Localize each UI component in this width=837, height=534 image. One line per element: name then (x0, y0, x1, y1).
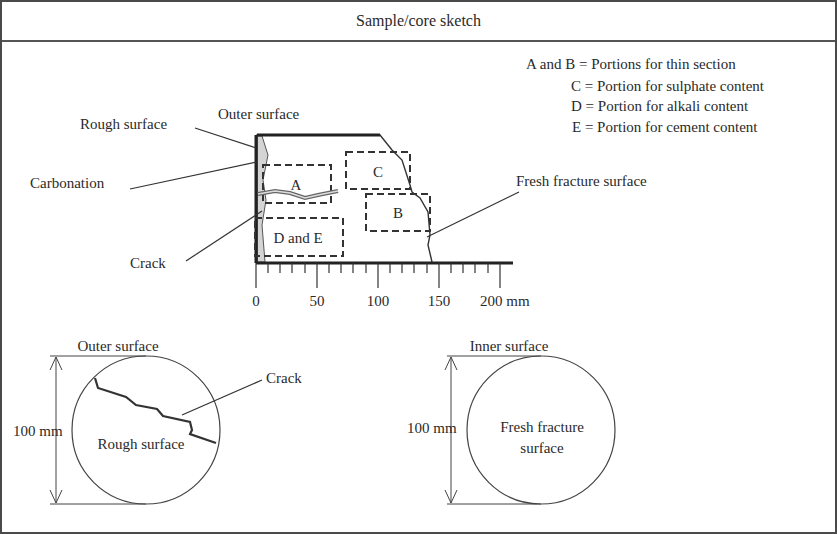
portion-de-label: D and E (273, 230, 322, 246)
legend-line-c: C = Portion for sulphate content (571, 78, 765, 94)
portion-b-label: B (393, 205, 403, 221)
carbonation-label: Carbonation (30, 175, 105, 191)
portion-a-label: A (291, 177, 302, 193)
legend-line-e: E = Portion for cement content (572, 119, 758, 135)
scale-ticks (256, 263, 500, 288)
scale-labels: 0 50 100 150 200 mm (252, 293, 530, 309)
outer-core-circle (72, 356, 220, 504)
fresh-fracture-label: Fresh fracture surface (516, 173, 647, 189)
outer-crack-label: Crack (266, 370, 302, 386)
portion-c-label: C (373, 164, 383, 180)
outer-surface-view: Outer surface 100 mm Crack Rough surface (13, 338, 302, 504)
scale-tick-50: 50 (310, 293, 325, 309)
scale-tick-150: 150 (428, 293, 451, 309)
inner-center-label-2: surface (520, 440, 564, 456)
scale-tick-200: 200 mm (480, 293, 530, 309)
inner-view-title: Inner surface (470, 338, 549, 354)
inner-center-label-1: Fresh fracture (500, 419, 584, 435)
crack-label: Crack (130, 255, 166, 271)
inner-dimension-label: 100 mm (407, 420, 457, 436)
legend-line-ab: A and B = Portions for thin section (526, 56, 736, 72)
rough-surface-label: Rough surface (80, 116, 167, 132)
legend: A and B = Portions for thin section C = … (526, 56, 765, 135)
legend-line-d: D = Portion for alkali content (571, 98, 749, 114)
outer-dimension-label: 100 mm (13, 423, 63, 439)
scale-tick-0: 0 (252, 293, 260, 309)
core-side-view: A C B D and E (30, 106, 647, 309)
scale-tick-100: 100 (367, 293, 390, 309)
outer-surface-label: Outer surface (218, 106, 300, 122)
outer-crack (95, 378, 216, 443)
inner-surface-view: Inner surface 100 mm Fresh fracture surf… (407, 338, 615, 504)
outer-center-label: Rough surface (97, 436, 184, 452)
outer-view-title: Outer surface (77, 338, 159, 354)
core-sketch-drawing: A and B = Portions for thin section C = … (0, 0, 837, 534)
